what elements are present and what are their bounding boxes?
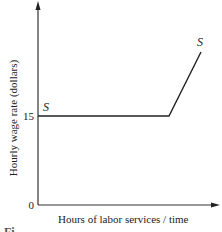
supply-label-right: S xyxy=(197,35,203,49)
supply-curve xyxy=(38,52,201,116)
x-axis-label: Hours of labor services / time xyxy=(58,213,189,225)
y-axis-label: Hourly wage rate (dollars) xyxy=(7,59,20,176)
y-axis-arrowhead-icon xyxy=(36,1,41,10)
figure-caption-fragment: Fi xyxy=(4,226,15,232)
x-axis-arrowhead-icon xyxy=(211,203,220,208)
supply-label-left: S xyxy=(43,100,49,114)
y-tick-15: 15 xyxy=(23,110,35,122)
supply-curve-figure: 15 0 S S Hours of labor services / time … xyxy=(0,0,222,232)
y-tick-0: 0 xyxy=(29,199,35,211)
chart-svg: 15 0 S S Hours of labor services / time … xyxy=(0,0,222,232)
